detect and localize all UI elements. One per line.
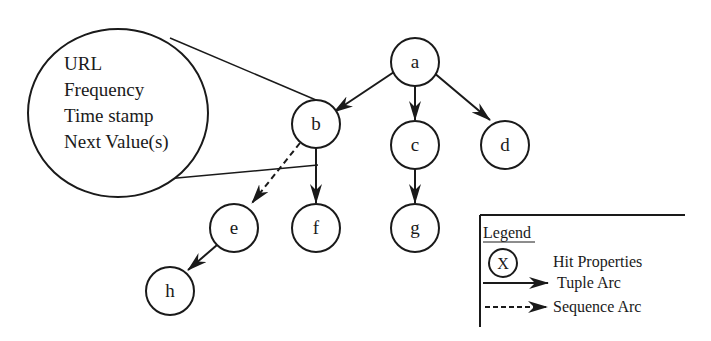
node-f: f (292, 204, 340, 252)
node-g: g (391, 204, 439, 252)
tree-diagram: URL Frequency Time stamp Next Value(s) a… (0, 0, 711, 341)
node-f-label: f (313, 217, 320, 238)
edge-e-h (188, 245, 217, 270)
legend-node-symbol: X (497, 255, 509, 272)
node-b: b (292, 100, 340, 148)
edge-b-e-sequence (252, 143, 300, 203)
legend-label-hit-properties: Hit Properties (553, 253, 642, 271)
legend: Legend X Hit Properties Tuple Arc Sequen… (480, 215, 685, 327)
legend-item-hit-properties: X Hit Properties (489, 249, 642, 277)
callout-line-frequency: Frequency (64, 79, 145, 100)
callout-line-url: URL (64, 53, 102, 74)
callout-line-timestamp: Time stamp (64, 105, 154, 126)
nodes: a b c d e f g h (146, 38, 529, 315)
node-a-label: a (411, 51, 420, 72)
node-c-label: c (411, 134, 419, 155)
node-d: d (481, 121, 529, 169)
node-a: a (391, 38, 439, 86)
legend-title: Legend (483, 224, 531, 242)
legend-label-sequence-arc: Sequence Arc (553, 298, 641, 316)
node-d-label: d (500, 134, 510, 155)
node-h-label: h (165, 280, 175, 301)
callout: URL Frequency Time stamp Next Value(s) (28, 29, 318, 197)
legend-label-tuple-arc: Tuple Arc (557, 274, 621, 292)
node-h: h (146, 267, 194, 315)
edge-a-b (334, 70, 397, 112)
node-e: e (210, 204, 258, 252)
edge-a-d (433, 72, 490, 120)
node-e-label: e (230, 217, 238, 238)
node-b-label: b (311, 113, 321, 134)
node-c: c (391, 121, 439, 169)
callout-line-next-values: Next Value(s) (64, 131, 169, 153)
node-g-label: g (410, 217, 420, 238)
legend-item-sequence-arc: Sequence Arc (485, 298, 641, 316)
